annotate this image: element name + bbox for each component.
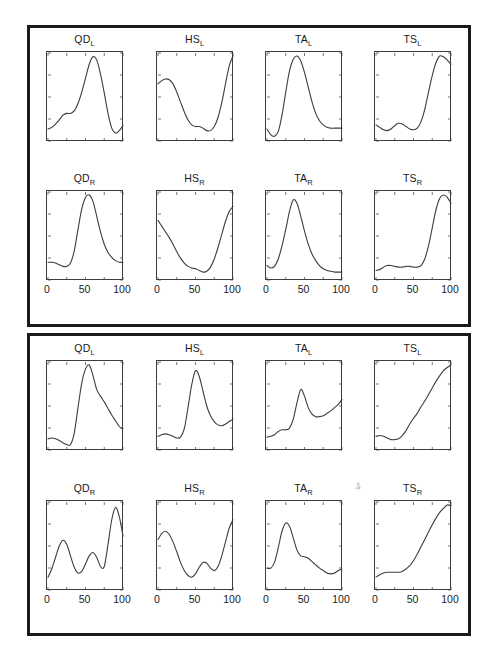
- x-tick-label: 50: [407, 283, 419, 295]
- figure-canvas: QDLHSLTALTSLQDR050100HSR050100TAR050100T…: [0, 0, 497, 665]
- subplot-title-base: HS: [185, 33, 200, 45]
- data-curve: [376, 365, 451, 440]
- subplot-title-subscript: R: [307, 488, 312, 497]
- subplot-hs-r-p2: HSR050100: [156, 482, 233, 606]
- x-tick-label: 50: [189, 593, 201, 605]
- axes-box: [156, 190, 233, 280]
- subplot-title-subscript: L: [417, 348, 421, 357]
- axes-box: [374, 51, 451, 141]
- tick-marks: [158, 502, 233, 590]
- curve-plot: [157, 191, 234, 281]
- axes-box: [265, 190, 342, 280]
- subplot-title-base: HS: [185, 342, 200, 354]
- subplot-title-subscript: L: [90, 39, 94, 48]
- axes-box: [374, 500, 451, 590]
- x-tick-label: 100: [332, 593, 350, 605]
- tick-marks: [158, 53, 233, 141]
- x-tick-label: 100: [441, 593, 459, 605]
- axes-box: [156, 51, 233, 141]
- subplot-ts-r-p2: TSR050100: [374, 482, 451, 606]
- curve-plot: [375, 191, 452, 281]
- x-tick-label: 0: [263, 283, 269, 295]
- subplot-ts-r-p1: TSR050100: [374, 172, 451, 296]
- x-axis-tick-labels: 050100: [374, 593, 451, 607]
- tick-marks: [376, 53, 451, 141]
- subplot-ts-l-p1: TSL: [374, 33, 451, 157]
- subplot-title-subscript: L: [417, 39, 421, 48]
- subplot-title: HSL: [156, 342, 233, 356]
- data-curve: [267, 523, 342, 574]
- axes-box: [374, 190, 451, 280]
- data-curve: [267, 199, 342, 272]
- subplot-hs-r-p1: HSR050100: [156, 172, 233, 296]
- subplot-title-subscript: R: [90, 178, 95, 187]
- x-tick-label: 0: [372, 283, 378, 295]
- subplot-title-subscript: L: [90, 348, 94, 357]
- subplot-hs-l-p2: HSL: [156, 342, 233, 466]
- curve-plot: [47, 52, 124, 142]
- x-axis-tick-labels: 050100: [374, 283, 451, 297]
- data-curve: [48, 57, 123, 134]
- subplot-qd-l-p1: QDL: [46, 33, 123, 157]
- subplot-title: QDL: [46, 33, 123, 47]
- axes-box: [374, 360, 451, 450]
- axes-box: [156, 500, 233, 590]
- subplot-ts-l-p2: TSL: [374, 342, 451, 466]
- subplot-title: HSR: [156, 482, 233, 496]
- tick-marks: [158, 362, 233, 450]
- subplot-title-subscript: R: [90, 488, 95, 497]
- curve-plot: [157, 501, 234, 591]
- subplot-title-base: TS: [404, 342, 418, 354]
- subplot-title: HSR: [156, 172, 233, 186]
- subplot-title-subscript: L: [308, 39, 312, 48]
- subplot-title-base: TA: [295, 33, 308, 45]
- data-curve: [158, 520, 233, 577]
- curve-plot: [266, 52, 343, 142]
- subplot-title: QDL: [46, 342, 123, 356]
- subplot-title: TAL: [265, 342, 342, 356]
- curve-plot: [375, 52, 452, 142]
- tick-marks: [267, 362, 342, 450]
- x-tick-label: 0: [263, 593, 269, 605]
- x-tick-label: 50: [189, 283, 201, 295]
- subplot-title-subscript: L: [308, 348, 312, 357]
- subplot-title-base: QD: [74, 172, 90, 184]
- curve-plot: [47, 501, 124, 591]
- curve-plot: [47, 191, 124, 281]
- curve-plot: [157, 52, 234, 142]
- tick-marks: [48, 362, 123, 450]
- x-axis-tick-labels: 050100: [265, 283, 342, 297]
- subplot-title-subscript: L: [200, 39, 204, 48]
- data-curve: [376, 56, 451, 131]
- x-tick-label: 100: [113, 593, 131, 605]
- subplot-title-subscript: R: [199, 488, 204, 497]
- x-tick-label: 50: [298, 283, 310, 295]
- curve-plot: [375, 361, 452, 451]
- data-curve: [48, 195, 123, 267]
- subplot-title-base: TS: [403, 482, 417, 494]
- subplot-title-subscript: L: [200, 348, 204, 357]
- axes-box: [46, 360, 123, 450]
- x-tick-label: 50: [298, 593, 310, 605]
- data-curve: [376, 195, 451, 270]
- data-curve: [158, 370, 233, 438]
- subplot-ta-r-p1: TAR050100: [265, 172, 342, 296]
- axes-box: [46, 500, 123, 590]
- subplot-title-base: HS: [184, 172, 199, 184]
- x-axis-tick-labels: 050100: [156, 283, 233, 297]
- subplot-title: TSL: [374, 342, 451, 356]
- x-tick-label: 100: [113, 283, 131, 295]
- x-tick-label: 0: [372, 593, 378, 605]
- tick-marks: [48, 192, 123, 280]
- x-tick-label: 0: [44, 283, 50, 295]
- axes-box: [46, 51, 123, 141]
- x-tick-label: 0: [44, 593, 50, 605]
- subplot-title: TAL: [265, 33, 342, 47]
- subplot-ta-r-p2: TAR050100: [265, 482, 342, 606]
- data-curve: [267, 56, 342, 137]
- x-tick-label: 0: [154, 593, 160, 605]
- data-curve: [158, 56, 233, 131]
- data-curve: [376, 505, 451, 577]
- data-curve: [48, 507, 123, 577]
- curve-plot: [266, 501, 343, 591]
